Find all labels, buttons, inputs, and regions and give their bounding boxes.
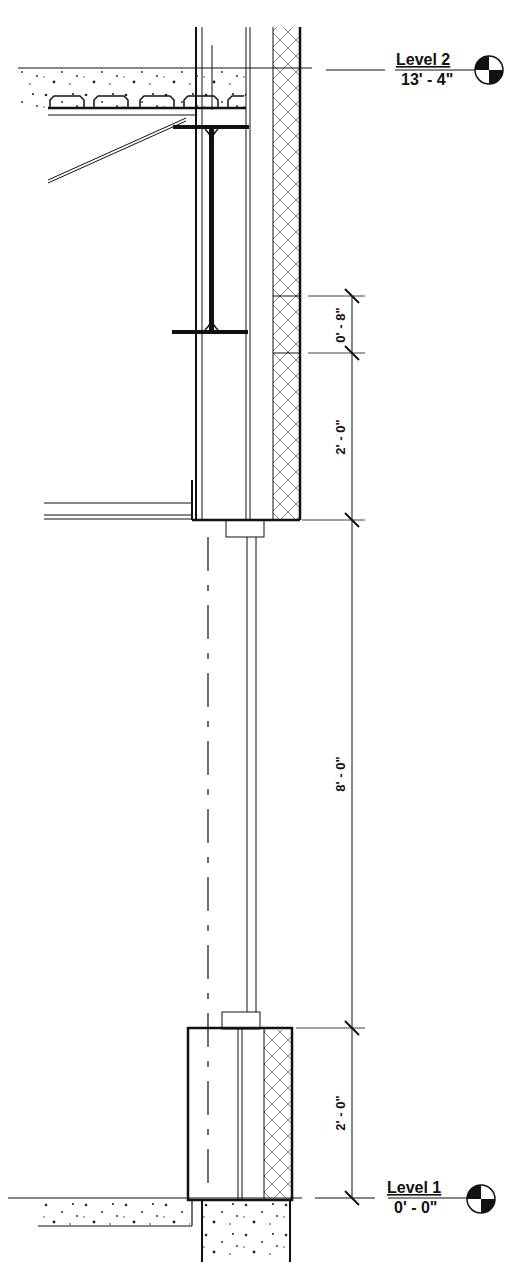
concrete-slab: [18, 68, 312, 183]
insulation-hatch: [273, 27, 300, 520]
level-datum-icon: [467, 1185, 495, 1213]
level-2-elevation: 13' - 4": [401, 71, 453, 88]
level-1-marker[interactable]: Level 1 0' - 0": [315, 1179, 495, 1216]
wall-section-drawing: 0' - 8" 2' - 0" 8' - 0" 2' - 0" Level 2 …: [0, 0, 520, 1265]
window-glazing: [208, 537, 256, 1195]
dimension-sill-panel: 2' - 0": [333, 1095, 348, 1130]
level-2-name: Level 2: [396, 51, 450, 68]
level-2-marker[interactable]: Level 2 13' - 4": [326, 51, 503, 88]
dimension-window-opening: 8' - 0": [333, 756, 348, 791]
dimension-top-band: 0' - 8": [333, 307, 348, 342]
dimension-string: 0' - 8" 2' - 0" 8' - 0" 2' - 0": [296, 289, 365, 1205]
level-1-name: Level 1: [387, 1179, 441, 1196]
steel-i-beam: [172, 125, 249, 334]
dimension-upper-panel: 2' - 0": [333, 419, 348, 454]
level-1-elevation: 0' - 0": [394, 1199, 437, 1216]
sill-panel: [188, 1012, 292, 1200]
level-datum-icon: [475, 56, 503, 84]
window-head: [44, 480, 300, 537]
foundation: [8, 1198, 302, 1262]
